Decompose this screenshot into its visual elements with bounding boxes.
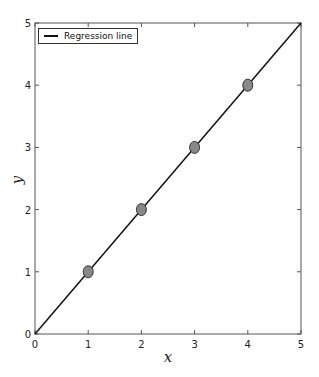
data-point [243, 79, 253, 91]
y-tick-label: 5 [25, 18, 31, 29]
legend: Regression line [38, 28, 138, 44]
data-point [83, 266, 93, 278]
x-tick-label: 5 [298, 339, 304, 350]
x-tick-label: 1 [85, 339, 91, 350]
legend-line-icon [44, 35, 58, 37]
y-tick-label: 1 [25, 267, 31, 278]
data-point [136, 204, 146, 216]
y-tick-label: 3 [25, 142, 31, 153]
chart-canvas: 012345012345 x y [0, 0, 319, 377]
x-axis-label: x [164, 348, 173, 366]
data-point [190, 141, 200, 153]
x-tick-label: 0 [32, 339, 38, 350]
y-axis-label: y [8, 175, 26, 185]
x-tick-label: 2 [138, 339, 144, 350]
legend-label: Regression line [64, 31, 132, 41]
y-tick-label: 0 [25, 329, 31, 340]
y-tick-label: 4 [25, 80, 31, 91]
x-tick-label: 3 [191, 339, 197, 350]
y-tick-label: 2 [25, 205, 31, 216]
x-tick-label: 4 [245, 339, 251, 350]
regression-line [35, 23, 301, 334]
